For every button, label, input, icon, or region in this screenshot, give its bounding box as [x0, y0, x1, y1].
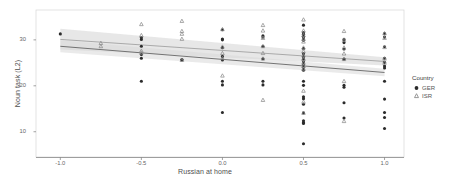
legend-label-isr: ISR [422, 93, 432, 99]
data-point [342, 101, 345, 104]
x-axis-title: Russian at home [0, 168, 410, 175]
x-tick-label: 1.0 [370, 160, 400, 166]
data-point [140, 45, 143, 48]
data-point [221, 80, 224, 83]
data-point [302, 122, 305, 125]
data-point [383, 111, 386, 114]
y-tick-label: 30 [8, 36, 26, 42]
y-tick-label: 20 [8, 82, 26, 88]
legend-label-ger: GER [422, 85, 435, 91]
data-point [383, 80, 386, 83]
legend-key-triangle-icon [412, 92, 421, 100]
x-tick-label: 0.0 [207, 160, 237, 166]
data-point [261, 83, 264, 86]
scatter-plot-canvas [0, 0, 456, 186]
data-point [383, 127, 386, 130]
data-point [342, 86, 345, 89]
data-point [221, 83, 224, 86]
data-point [302, 142, 305, 145]
data-point [59, 32, 62, 35]
data-point [221, 38, 224, 41]
legend-key-circle-icon [412, 84, 421, 92]
x-tick-label: -1.0 [45, 160, 75, 166]
chart-figure: Russian at home Noun task (L2) -1.0-0.50… [0, 0, 456, 186]
data-point [221, 111, 224, 114]
data-point [140, 57, 143, 60]
data-point [140, 80, 143, 83]
legend: Country GER ISR [412, 74, 456, 101]
data-point [383, 116, 386, 119]
data-point [302, 84, 305, 87]
data-point [302, 80, 305, 83]
x-tick-label: 0.5 [288, 160, 318, 166]
legend-item-ger[interactable]: GER [412, 84, 456, 92]
y-tick-label: 10 [8, 128, 26, 134]
data-point [140, 38, 143, 41]
data-point [383, 98, 386, 101]
data-point [383, 66, 386, 69]
data-point [302, 24, 305, 27]
legend-item-isr[interactable]: ISR [412, 92, 456, 100]
x-tick-label: -0.5 [126, 160, 156, 166]
legend-title: Country [412, 74, 456, 81]
data-point [261, 80, 264, 83]
